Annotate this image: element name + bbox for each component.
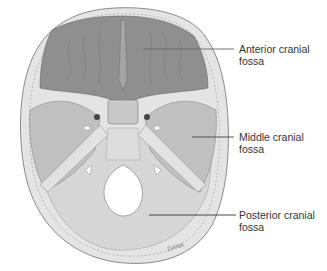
label-text-line1: Posterior cranial (239, 209, 315, 221)
sella-turcica (108, 100, 138, 124)
optic-foramen-right (144, 114, 150, 120)
label-text-line1: Middle cranial (239, 131, 304, 143)
label-text-line2: fossa (239, 143, 304, 155)
label-text-line2: fossa (239, 221, 315, 233)
label-posterior-cranial-fossa: Posterior cranial fossa (239, 209, 315, 233)
label-anterior-cranial-fossa: Anterior cranial fossa (239, 43, 310, 67)
clivus (106, 128, 140, 160)
label-middle-cranial-fossa: Middle cranial fossa (239, 131, 304, 155)
label-text-line2: fossa (239, 55, 310, 67)
optic-foramen-left (94, 114, 100, 120)
label-text-line1: Anterior cranial (239, 43, 310, 55)
foramen-left (84, 126, 90, 130)
foramen-right (154, 126, 160, 130)
